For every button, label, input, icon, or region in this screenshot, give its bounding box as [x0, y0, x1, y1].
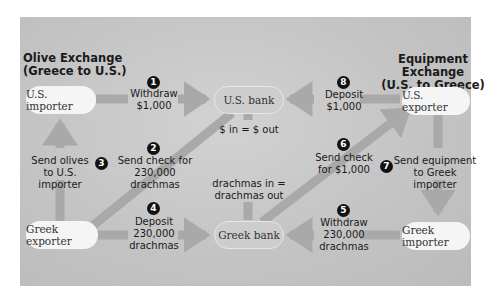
step-number-6: 6	[337, 138, 350, 151]
step-label-3: Send olives to U.S. importer	[22, 155, 98, 191]
step-label-4: Deposit 230,000 drachmas	[124, 216, 184, 252]
node-greek-exporter: Greek exporter	[26, 221, 98, 249]
step-label-7: Send equipment to Greek importer	[392, 155, 478, 191]
balance-us-bank: $ in = $ out	[212, 124, 286, 136]
step-label-1: Withdraw $1,000	[124, 88, 184, 112]
step-number-8: 8	[337, 76, 350, 89]
step-label-2: Send check for 230,000 drachmas	[110, 155, 200, 191]
node-greek-bank: Greek bank	[214, 221, 284, 249]
title-olive-exchange: Olive Exchange (Greece to U.S.)	[23, 52, 127, 78]
node-us-importer: U.S. importer	[26, 86, 96, 114]
node-greek-importer: Greek importer	[402, 222, 470, 250]
balance-greek-bank: drachmas in = drachmas out	[206, 178, 292, 202]
step-label-6: Send check for $1,000	[314, 152, 374, 176]
step-label-8: Deposit $1,000	[314, 89, 374, 113]
step-number-5: 5	[337, 204, 350, 217]
flow-arrows	[0, 0, 496, 303]
node-us-exporter: U.S. exporter	[402, 87, 470, 115]
step-number-4: 4	[147, 202, 160, 215]
node-us-bank: U.S. bank	[214, 86, 284, 114]
step-label-5: Withdraw 230,000 drachmas	[314, 217, 374, 253]
step-number-2: 2	[147, 142, 160, 155]
